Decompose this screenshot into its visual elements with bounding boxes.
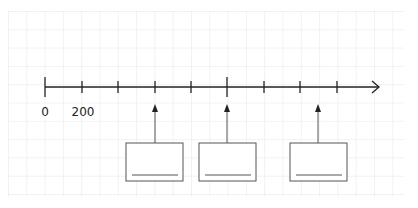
axis-label: 0 (41, 105, 49, 119)
number-line-diagram (0, 0, 418, 208)
axis-label: 200 (72, 105, 95, 119)
